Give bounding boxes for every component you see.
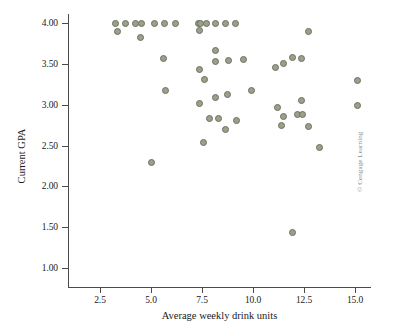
data-point: [298, 55, 305, 62]
y-tick-mark: [62, 227, 68, 228]
data-point: [162, 87, 169, 94]
data-point: [196, 100, 203, 107]
x-axis-title: Average weekly drink units: [68, 310, 371, 322]
data-point: [280, 60, 287, 67]
data-point: [196, 66, 203, 73]
data-point: [280, 113, 287, 120]
data-point: [299, 111, 306, 118]
plot-area: 1.001.502.002.503.003.504.00 2.55.07.510…: [0, 0, 412, 336]
data-point: [278, 122, 285, 129]
x-tick-mark: [355, 287, 356, 293]
x-tick-mark: [304, 287, 305, 293]
data-point: [137, 34, 144, 41]
data-point: [212, 20, 219, 27]
data-point: [138, 20, 145, 27]
scatter-plot-figure: 1.001.502.002.503.003.504.00 2.55.07.510…: [0, 0, 412, 336]
x-axis-line: [68, 287, 371, 288]
data-point: [215, 115, 222, 122]
y-tick-label: 4.00: [42, 18, 58, 28]
x-tick-mark: [100, 287, 101, 293]
x-tick-label: 5.0: [131, 295, 171, 306]
y-tick-mark: [62, 23, 68, 24]
y-tick-mark: [62, 146, 68, 147]
y-tick-mark: [62, 105, 68, 106]
data-point: [232, 20, 239, 27]
data-point: [161, 20, 168, 27]
data-point: [160, 55, 167, 62]
data-point: [151, 20, 158, 27]
y-tick-label: 1.50: [42, 222, 58, 232]
data-point: [114, 28, 121, 35]
y-tick-mark: [62, 64, 68, 65]
x-tick-label: 7.5: [182, 295, 222, 306]
data-point: [305, 123, 312, 130]
x-tick-mark: [202, 287, 203, 293]
data-point: [305, 28, 312, 35]
data-point: [316, 144, 323, 151]
y-tick-label: 2.50: [42, 141, 58, 151]
data-point: [203, 20, 210, 27]
data-point: [112, 20, 119, 27]
data-point: [222, 20, 229, 27]
x-tick-mark: [151, 287, 152, 293]
data-point: [200, 139, 207, 146]
data-point: [240, 56, 247, 63]
x-tick-label: 12.5: [284, 295, 324, 306]
data-point: [196, 27, 203, 34]
x-tick-mark: [253, 287, 254, 293]
data-point: [298, 97, 305, 104]
data-point: [172, 20, 179, 27]
y-tick-label: 2.00: [42, 181, 58, 191]
y-tick-label: 3.50: [42, 59, 58, 69]
y-tick-mark: [62, 186, 68, 187]
x-tick-label: 15.0: [335, 295, 375, 306]
data-point: [212, 47, 219, 54]
data-point: [233, 117, 240, 124]
data-point: [212, 94, 219, 101]
data-point: [224, 91, 231, 98]
data-point: [225, 57, 232, 64]
data-point: [248, 87, 255, 94]
data-point: [289, 54, 296, 61]
data-point: [222, 126, 229, 133]
data-point: [148, 159, 155, 166]
data-point: [122, 20, 129, 27]
data-point: [289, 229, 296, 236]
copyright-credit: © Cengage Learning: [356, 82, 364, 192]
data-point: [201, 76, 208, 83]
y-tick-mark: [62, 268, 68, 269]
y-axis-title: Current GPA: [16, 91, 28, 221]
data-point: [206, 115, 213, 122]
x-tick-label: 10.0: [233, 295, 273, 306]
data-point: [212, 58, 219, 65]
y-tick-label: 1.00: [42, 263, 58, 273]
data-point: [272, 64, 279, 71]
data-point: [274, 104, 281, 111]
y-axis-line: [68, 14, 69, 287]
x-tick-label: 2.5: [80, 295, 120, 306]
y-tick-label: 3.00: [42, 100, 58, 110]
